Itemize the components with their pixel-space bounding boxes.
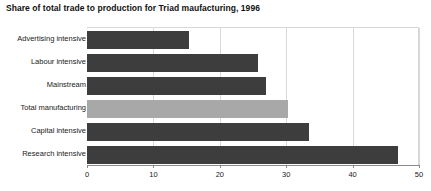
x-tick-label-20: 20 bbox=[205, 170, 235, 179]
bar bbox=[87, 100, 288, 118]
gridline-40 bbox=[353, 28, 354, 165]
tick-mark-10 bbox=[153, 165, 154, 168]
bar bbox=[87, 146, 398, 164]
bar bbox=[87, 31, 189, 49]
category-label: Total manufacturing bbox=[0, 99, 86, 117]
gridline-30 bbox=[286, 28, 287, 165]
x-tick-label-30: 30 bbox=[271, 170, 301, 179]
tick-mark-0 bbox=[87, 165, 88, 168]
tick-mark-40 bbox=[353, 165, 354, 168]
bar-chart: Share of total trade to production for T… bbox=[0, 0, 431, 191]
gridline-20 bbox=[220, 28, 221, 165]
bar bbox=[87, 77, 266, 95]
category-label: Capital intensive bbox=[0, 122, 86, 140]
x-tick-label-0: 0 bbox=[72, 170, 102, 179]
gridline-10 bbox=[153, 28, 154, 165]
plot-area bbox=[87, 27, 419, 165]
x-tick-label-40: 40 bbox=[338, 170, 368, 179]
x-tick-label-50: 50 bbox=[404, 170, 431, 179]
tick-mark-20 bbox=[220, 165, 221, 168]
gridline-50 bbox=[419, 28, 420, 165]
category-label: Advertising intensive bbox=[0, 30, 86, 48]
tick-mark-50 bbox=[419, 165, 420, 168]
bar bbox=[87, 123, 309, 141]
category-label: Labour intensive bbox=[0, 53, 86, 71]
x-axis-line bbox=[87, 165, 420, 166]
tick-mark-30 bbox=[286, 165, 287, 168]
x-tick-label-10: 10 bbox=[138, 170, 168, 179]
bar bbox=[87, 54, 258, 72]
category-label: Research intensive bbox=[0, 145, 86, 163]
chart-title: Share of total trade to production for T… bbox=[6, 3, 260, 13]
category-label: Mainstream bbox=[0, 76, 86, 94]
